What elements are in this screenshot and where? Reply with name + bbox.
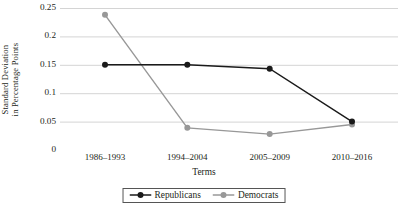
data-point-marker	[184, 62, 190, 68]
y-axis-tick-label: 0.1	[16, 89, 56, 98]
x-axis-tick-label: 1986–1993	[85, 153, 126, 162]
x-axis-tick-label: 1994–2004	[167, 153, 208, 162]
series-layer	[102, 12, 355, 137]
y-axis-tick-labels: 00.050.10.150.20.25	[16, 0, 56, 160]
data-point-marker	[267, 131, 273, 137]
x-axis-tick-label: 2005–2009	[249, 153, 290, 162]
plot-area	[60, 8, 398, 150]
y-axis-tick-label: 0.25	[16, 3, 56, 12]
series-democrats	[102, 12, 355, 137]
x-axis-title: Terms	[0, 167, 408, 177]
y-axis-tick-label: 0.05	[16, 117, 56, 126]
chart-legend: RepublicansDemocrats	[123, 188, 286, 203]
legend-marker-icon	[130, 190, 152, 200]
data-point-marker	[102, 62, 108, 68]
legend-label: Republicans	[155, 190, 201, 200]
data-point-marker	[184, 125, 190, 131]
gridlines	[60, 9, 398, 151]
legend-marker-icon	[213, 190, 235, 200]
data-point-marker	[102, 12, 108, 18]
data-point-marker	[349, 119, 355, 125]
x-axis-tick-labels: 1986–19931994–20042005–20092010–2016	[0, 153, 408, 167]
plot-svg	[60, 8, 398, 150]
chart-figure: in Percentage Points Standard Deviation …	[0, 0, 408, 214]
y-axis-tick-label: 0.15	[16, 60, 56, 69]
data-point-marker	[267, 66, 273, 72]
legend-label: Democrats	[238, 190, 279, 200]
legend-entry-republicans: Republicans	[130, 190, 201, 200]
series-line	[105, 15, 352, 134]
legend-entry-democrats: Democrats	[213, 190, 279, 200]
y-axis-tick-label: 0.2	[16, 32, 56, 41]
x-axis-tick-label: 2010–2016	[332, 153, 373, 162]
